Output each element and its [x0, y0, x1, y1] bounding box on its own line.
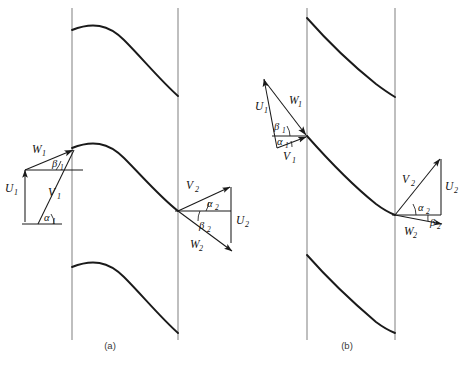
label-beta2: β: [429, 217, 436, 228]
label-v2: V: [186, 179, 195, 191]
label-v1-sub: 1: [292, 156, 296, 165]
panel-b-outlet-triangle: V 2 U 2 W 2 α 2 β 2: [392, 159, 458, 240]
label-u1: U: [255, 100, 264, 112]
label-alpha2-sub: 2: [426, 207, 430, 216]
label-w1-sub: 1: [298, 100, 302, 109]
blade-profile-top: [307, 18, 395, 97]
label-v1: V: [283, 150, 292, 162]
panel-b-inlet-triangle: U 1 W 1 V 1 β 1 α 1: [255, 79, 308, 165]
label-u2: U: [236, 214, 245, 226]
blade-profile-bottom: [307, 255, 395, 333]
label-u2-sub: 2: [454, 186, 458, 195]
label-beta1-sub: 1: [60, 163, 64, 172]
label-beta1: β: [273, 121, 280, 132]
label-v1-sub: 1: [57, 192, 61, 201]
label-w2-sub: 2: [199, 244, 203, 253]
panel-a-blades: [72, 25, 178, 333]
label-v2: V: [402, 173, 411, 185]
label-u1-sub: 1: [264, 106, 268, 115]
panel-a-pitch-lines: [72, 8, 178, 340]
label-w1-sub: 1: [42, 149, 46, 158]
angle-arc-beta1: [287, 126, 290, 136]
velocity-triangle-diagram: W 1 U 1 V 1 β 1 α 1 V 2 U 2: [0, 0, 460, 368]
label-u2: U: [445, 180, 454, 192]
label-u1-sub: 1: [14, 188, 18, 197]
label-beta1: β: [51, 158, 58, 169]
panel-b-pitch-lines: [307, 8, 395, 340]
panel-b: U 1 W 1 V 1 β 1 α 1 V 2 U 2: [255, 8, 458, 351]
angle-arc-alpha2: [413, 204, 416, 215]
label-u1: U: [5, 182, 14, 194]
blade-profile-top: [72, 25, 178, 96]
label-beta2-sub: 2: [437, 222, 441, 231]
label-alpha1-sub: 1: [52, 217, 56, 226]
label-alpha2: α: [207, 198, 213, 209]
figure-container: W 1 U 1 V 1 β 1 α 1 V 2 U 2: [0, 0, 460, 368]
label-alpha1: α: [277, 136, 283, 147]
panel-b-caption: (b): [341, 340, 353, 351]
blade-profile-middle: [307, 136, 395, 215]
panel-b-blades: [307, 18, 395, 333]
panel-a-outlet-triangle: V 2 U 2 W 2 α 2 β 2: [175, 179, 249, 253]
blade-profile-bottom: [72, 262, 178, 333]
label-beta2-sub: 2: [207, 225, 211, 234]
label-alpha1: α: [44, 212, 50, 223]
label-alpha2: α: [418, 202, 424, 213]
panel-a-inlet-triangle: W 1 U 1 V 1 β 1 α 1: [5, 143, 83, 226]
panel-a: W 1 U 1 V 1 β 1 α 1 V 2 U 2: [5, 8, 249, 351]
label-alpha2-sub: 2: [215, 203, 219, 212]
label-alpha1-sub: 1: [285, 141, 289, 150]
label-w2-sub: 2: [413, 231, 417, 240]
label-v2-sub: 2: [195, 185, 199, 194]
blade-profile-middle: [72, 143, 178, 211]
label-v2-sub: 2: [411, 179, 415, 188]
label-beta1-sub: 1: [282, 126, 286, 135]
vector-w2: [178, 211, 232, 251]
label-u2-sub: 2: [245, 220, 249, 229]
label-beta2: β: [198, 220, 205, 231]
panel-a-caption: (a): [104, 340, 116, 351]
